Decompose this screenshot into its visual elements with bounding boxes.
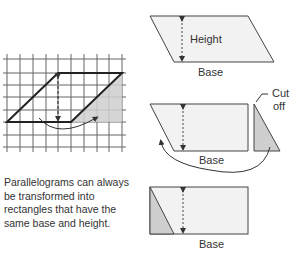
cut-off-label-line2: off bbox=[273, 100, 286, 112]
middle-base-label: Base bbox=[199, 154, 224, 166]
caption-line: be transformed into bbox=[4, 190, 154, 204]
caption: Parallelograms can always be transformed… bbox=[4, 176, 154, 230]
caption-line: rectangles that have the bbox=[4, 203, 154, 217]
caption-line: same base and height. bbox=[4, 217, 154, 231]
cut-off-label-line1: Cut bbox=[272, 87, 289, 99]
height-label: Height bbox=[190, 33, 222, 45]
cut-off-leader bbox=[256, 94, 268, 102]
top-base-label: Base bbox=[198, 66, 223, 78]
bottom-base-label: Base bbox=[199, 238, 224, 250]
middle-trapezoid bbox=[150, 104, 248, 151]
caption-line: Parallelograms can always bbox=[4, 176, 154, 190]
